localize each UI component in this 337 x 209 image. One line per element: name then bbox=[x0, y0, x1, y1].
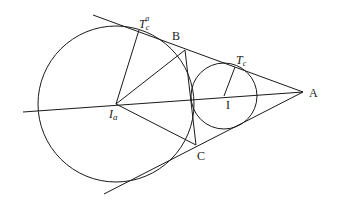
radius-Ia-Tca bbox=[116, 30, 139, 104]
label-Ia: Ia bbox=[108, 107, 118, 122]
segment-Ia-B bbox=[116, 50, 185, 104]
geometry-diagram: A B C I Ia Tc Tca bbox=[0, 0, 337, 209]
radius-I-Tc bbox=[224, 67, 235, 96]
label-Tc: Tc bbox=[236, 53, 247, 68]
lower-tangent-line-AC bbox=[104, 92, 303, 194]
label-Tca: Tca bbox=[139, 14, 150, 32]
segment-Ia-C bbox=[116, 104, 196, 145]
label-C: C bbox=[197, 149, 205, 163]
label-B: B bbox=[172, 29, 180, 43]
label-A: A bbox=[309, 86, 318, 100]
segment-BC bbox=[185, 50, 196, 145]
label-I: I bbox=[226, 98, 230, 112]
angle-bisector-line bbox=[23, 92, 303, 112]
upper-tangent-line-AB bbox=[93, 15, 303, 92]
